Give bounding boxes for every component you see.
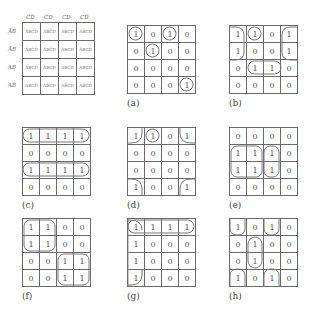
kmap-cell: 1 — [128, 219, 145, 236]
kmap-cell: 0 — [40, 270, 57, 287]
kmap-cell: 0 — [23, 145, 40, 162]
kmap-cell: 1 — [40, 128, 57, 145]
kmap-cell: 1 — [23, 236, 40, 253]
minterm-cell: ABCD̄ — [77, 59, 95, 77]
kmap-cell: 1 — [74, 270, 91, 287]
kmap-cell: 0 — [23, 270, 40, 287]
kmap-cell: 0 — [40, 145, 57, 162]
map-caption: (h) — [229, 291, 242, 301]
kmap-cell: 1 — [281, 26, 298, 43]
kmap-cell: 0 — [145, 77, 162, 94]
kmap-cell: 0 — [230, 60, 247, 77]
kmap-cell: 1 — [23, 128, 40, 145]
kmap-cell: 0 — [230, 179, 247, 196]
kmap-cell: 1 — [57, 162, 74, 179]
kmap-cell: 0 — [145, 60, 162, 77]
kmap-cell: 0 — [162, 162, 179, 179]
kmap-cell: 0 — [247, 270, 264, 287]
kmap-cell: 0 — [145, 179, 162, 196]
kmap-cell: 0 — [247, 77, 264, 94]
kmap-cell: 1 — [179, 77, 196, 94]
minterm-cell: AB̄C̄D — [41, 77, 59, 95]
map-caption: (f) — [22, 291, 32, 301]
kmap-a: 1010010000000001 — [127, 25, 196, 94]
kmap-cell: 1 — [74, 253, 91, 270]
kmap-c: 1111000011110000 — [22, 127, 91, 196]
kmap-cell: 1 — [145, 128, 162, 145]
kmap-cell: 0 — [264, 43, 281, 60]
col-label: C̄D — [44, 14, 53, 20]
minterm-cell: ABC̄D — [41, 59, 59, 77]
kmap-cell: 1 — [145, 219, 162, 236]
kmap-cell: 1 — [40, 236, 57, 253]
kmap-cell: 0 — [230, 128, 247, 145]
kmap-cell: 0 — [179, 162, 196, 179]
kmap-cell: 1 — [128, 270, 145, 287]
kmap-cell: 0 — [145, 236, 162, 253]
kmap-cell: 1 — [74, 162, 91, 179]
map-caption: (d) — [127, 200, 140, 210]
kmap-cell: 0 — [281, 179, 298, 196]
kmap-cell: 1 — [40, 162, 57, 179]
kmap-cell: 0 — [230, 77, 247, 94]
kmap-cell: 0 — [179, 43, 196, 60]
kmap-f: 1100110000110011 — [22, 218, 91, 287]
col-label: CD̄ — [80, 14, 89, 20]
row-label: AB̄ — [8, 82, 16, 88]
minterm-cell: ĀBC̄D — [41, 41, 59, 59]
kmap-cell: 0 — [40, 253, 57, 270]
minterm-cell: ĀB̄C̄D — [41, 23, 59, 41]
kmap-cell: 1 — [57, 253, 74, 270]
kmap-cell: 1 — [247, 60, 264, 77]
kmap-cell: 0 — [162, 236, 179, 253]
kmap-cell: 0 — [264, 26, 281, 43]
kmap-cell: 0 — [230, 253, 247, 270]
kmap-cell: 1 — [128, 179, 145, 196]
kmap-cell: 1 — [230, 26, 247, 43]
kmap-cell: 0 — [179, 253, 196, 270]
kmap-cell: 0 — [264, 128, 281, 145]
kmap-cell: 0 — [230, 236, 247, 253]
kmap-cell: 0 — [281, 253, 298, 270]
minterm-cell: ABCD — [59, 59, 77, 77]
kmap-cell: 1 — [162, 219, 179, 236]
kmap-cell: 0 — [57, 179, 74, 196]
kmap-cell: 0 — [162, 253, 179, 270]
kmap-cell: 0 — [247, 219, 264, 236]
kmap-cell: 1 — [247, 145, 264, 162]
kmap-cell: 1 — [74, 128, 91, 145]
kmap-cell: 1 — [230, 162, 247, 179]
row-label: ĀB — [8, 46, 16, 52]
kmap-cell: 1 — [57, 270, 74, 287]
kmap-cell: 1 — [247, 236, 264, 253]
kmap-cell: 1 — [128, 26, 145, 43]
minterm-cell: ĀBCD̄ — [77, 41, 95, 59]
kmap-cell: 1 — [145, 43, 162, 60]
kmap-cell: 0 — [57, 236, 74, 253]
kmap-cell: 0 — [40, 179, 57, 196]
kmap-cell: 0 — [128, 60, 145, 77]
kmap-cell: 1 — [281, 43, 298, 60]
kmap-cell: 1 — [179, 128, 196, 145]
minterm-grid: ĀB̄C̄D̄ĀB̄C̄DĀB̄CDĀB̄CD̄ ĀBC̄D̄ĀBC̄DĀBCD… — [22, 22, 95, 95]
kmap-cell: 0 — [145, 253, 162, 270]
kmap-cell: 1 — [23, 219, 40, 236]
kmap-cell: 0 — [281, 77, 298, 94]
kmap-cell: 0 — [281, 128, 298, 145]
kmap-cell: 1 — [264, 60, 281, 77]
minterm-cell: ĀBCD — [59, 41, 77, 59]
minterm-cell: ĀBC̄D̄ — [23, 41, 41, 59]
kmap-cell: 1 — [247, 253, 264, 270]
kmap-cell: 1 — [128, 236, 145, 253]
kmap-cell: 1 — [179, 219, 196, 236]
minterm-cell: AB̄CD — [59, 77, 77, 95]
kmap-cell: 0 — [74, 145, 91, 162]
kmap-cell: 1 — [40, 219, 57, 236]
kmap-cell: 0 — [74, 219, 91, 236]
kmap-cell: 0 — [162, 179, 179, 196]
kmap-cell: 1 — [162, 26, 179, 43]
kmap-cell: 0 — [57, 219, 74, 236]
kmap-cell: 0 — [264, 236, 281, 253]
col-label: C̄D̄ — [26, 14, 35, 20]
kmap-cell: 0 — [128, 162, 145, 179]
